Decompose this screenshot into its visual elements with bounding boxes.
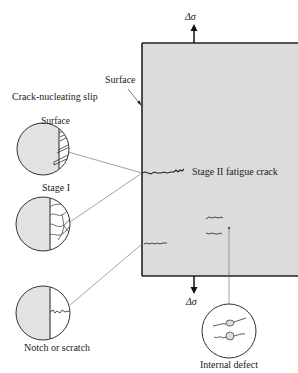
surface-pointer-arrow-icon: [128, 89, 142, 106]
inset-stage1: [16, 196, 79, 252]
stress-arrow-down-icon: [191, 276, 198, 294]
inset-internal-title: Internal defect: [200, 360, 258, 370]
leader-stage1: [70, 173, 142, 222]
inset-slip-title: Crack-nucleating slip: [12, 92, 98, 102]
surface-label: Surface: [105, 75, 136, 85]
inset-internal-defect: [202, 304, 256, 358]
inset-notch-title: Notch or scratch: [24, 343, 90, 353]
stress-label-top: Δσ: [185, 12, 196, 22]
inset-slip: [17, 120, 76, 180]
stage2-crack-label: Stage II fatigue crack: [192, 167, 278, 177]
stress-arrow-up-icon: [191, 24, 198, 43]
leader-notch: [70, 244, 142, 305]
specimen: [142, 43, 298, 276]
leader-slip: [68, 152, 142, 173]
stress-label-bottom: Δσ: [186, 297, 197, 307]
inset-slip-surface-label: Surface: [41, 117, 70, 127]
inset-stage1-title: Stage I: [42, 183, 70, 193]
inset-notch: [16, 285, 74, 341]
